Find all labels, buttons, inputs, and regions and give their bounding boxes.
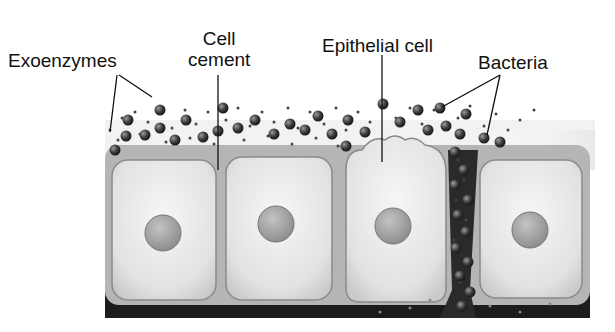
- nucleus-3: [375, 208, 411, 244]
- epithelium-illustration: [0, 0, 615, 332]
- bacteria-leader-1: [442, 75, 500, 107]
- nucleus-4: [512, 212, 548, 248]
- exoenzymes-leader-2: [119, 75, 152, 97]
- nucleus-2: [258, 206, 294, 242]
- nucleus-1: [145, 215, 181, 251]
